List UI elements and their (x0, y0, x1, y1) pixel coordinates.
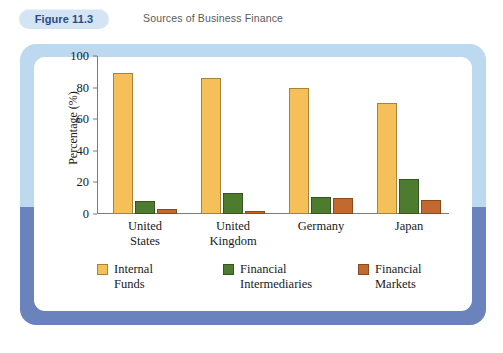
legend-item: Internal Funds (97, 262, 223, 292)
bar (311, 197, 331, 214)
x-axis-group-label: Japan (395, 219, 423, 234)
bar (289, 88, 309, 214)
legend-label: Internal Funds (114, 262, 153, 292)
legend-swatch-icon (223, 264, 234, 275)
bar-group: Germany (289, 56, 353, 214)
plot-area: 020406080100 United StatesUnited Kingdom… (97, 56, 449, 214)
bar (113, 73, 133, 214)
x-axis-group-label: United Kingdom (209, 219, 256, 248)
bar (157, 209, 177, 214)
figure-number-badge: Figure 11.3 (19, 9, 109, 29)
figure-title: Sources of Business Finance (143, 13, 283, 24)
legend-swatch-icon (358, 264, 369, 275)
bar (245, 211, 265, 214)
legend-item: Financial Intermediaries (223, 262, 358, 292)
x-axis-group-label: Germany (298, 219, 345, 234)
bar (399, 179, 419, 214)
bar-chart: Percentage (%) 020406080100 United State… (34, 44, 472, 298)
bar (333, 198, 353, 214)
legend-label: Financial Markets (375, 262, 422, 292)
bar (223, 193, 243, 214)
legend-label: Financial Intermediaries (240, 262, 312, 292)
bar-group: United States (113, 56, 177, 214)
bar-group: Japan (377, 56, 441, 214)
bars-layer: United StatesUnited KingdomGermanyJapan (97, 56, 449, 214)
legend-swatch-icon (97, 264, 108, 275)
bar (377, 103, 397, 214)
bar (135, 201, 155, 214)
bar (201, 78, 221, 214)
x-axis-group-label: United States (128, 219, 162, 248)
bar-group: United Kingdom (201, 56, 265, 214)
figure-header: Figure 11.3 Sources of Business Finance (0, 0, 503, 44)
chart-legend: Internal FundsFinancial IntermediariesFi… (97, 262, 457, 292)
figure-number-label: Figure 11.3 (35, 14, 94, 25)
bar (421, 200, 441, 214)
legend-item: Financial Markets (358, 262, 457, 292)
